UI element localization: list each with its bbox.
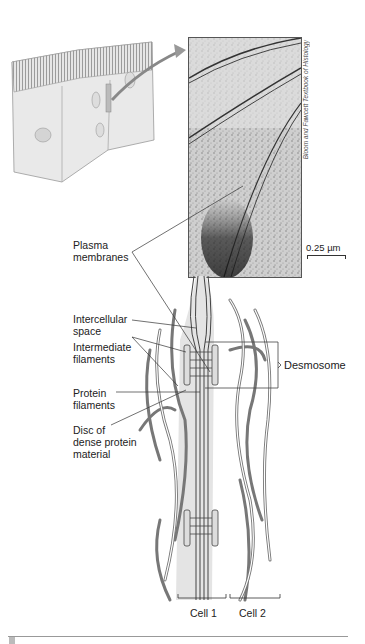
footer-divider (8, 636, 348, 637)
label-intermediate-filaments: Intermediate filaments (73, 341, 131, 365)
label-desmosome: Desmosome (284, 359, 346, 371)
footer-marker (9, 637, 15, 644)
scale-bar-label: 0.25 µm (306, 242, 341, 253)
label-intercellular-space: Intercellular space (73, 313, 127, 337)
image-credit: Bloom and Fawcett Textbook of Histology (302, 40, 309, 159)
label-cell-1: Cell 1 (190, 607, 217, 619)
label-plasma-membranes: Plasma membranes (73, 239, 128, 263)
label-cell-2: Cell 2 (239, 607, 266, 619)
desmosome-diagram (0, 0, 365, 644)
label-disc-dense-protein: Disc of dense protein material (73, 424, 137, 460)
label-protein-filaments: Protein filaments (73, 387, 115, 411)
scale-bar (307, 255, 346, 259)
